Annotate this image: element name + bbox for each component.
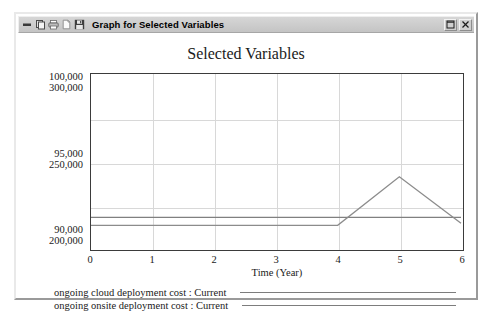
legend-item[interactable]: ongoing onsite deployment cost : Current — [54, 299, 464, 312]
y-tick-label: 200,000 — [18, 235, 90, 246]
legend-item[interactable]: ongoing cloud deployment cost : Current — [54, 286, 464, 299]
legend-color-swatch — [242, 305, 456, 306]
chart-title: Selected Variables — [18, 45, 474, 63]
x-tick-label: 3 — [273, 254, 278, 265]
minimize-icon[interactable] — [22, 19, 33, 30]
x-tick-label: 6 — [459, 254, 464, 265]
x-tick-label: 2 — [211, 254, 216, 265]
x-tick-label: 1 — [149, 254, 154, 265]
y-tick-label: 95,000 — [18, 148, 90, 159]
print-icon[interactable] — [48, 19, 59, 30]
window-titlebar[interactable]: Graph for Selected Variables — [18, 16, 474, 33]
x-tick-label: 5 — [397, 254, 402, 265]
y-tick-label: 100,000 — [18, 71, 90, 82]
x-axis-labels: 0 1 2 3 4 5 6 — [90, 254, 464, 268]
y-tick-label: 90,000 — [18, 224, 90, 235]
y-tick-label: 250,000 — [18, 159, 90, 170]
save-icon[interactable] — [74, 19, 85, 30]
chart-legend: ongoing cloud deployment cost : Current … — [54, 286, 464, 312]
plot-area — [90, 73, 464, 251]
x-tick-label: 0 — [87, 254, 92, 265]
y-axis-labels: 100,000 300,000 95,000 250,000 90,000 20… — [18, 73, 90, 251]
page-setup-icon[interactable] — [61, 19, 72, 30]
y-tick-label: 300,000 — [18, 82, 90, 93]
copy-icon[interactable] — [35, 19, 46, 30]
window-title: Graph for Selected Variables — [92, 19, 442, 30]
legend-item-label: ongoing cloud deployment cost : Current — [54, 287, 226, 298]
graph-window: Graph for Selected Variables Selected Va… — [14, 12, 478, 300]
x-axis-title: Time (Year) — [90, 267, 464, 278]
titlebar-icon-group — [22, 19, 85, 30]
legend-color-swatch — [240, 292, 456, 293]
close-button[interactable] — [459, 19, 472, 31]
x-tick-label: 4 — [335, 254, 340, 265]
window-client-area: Selected Variables 100,000 300,000 95,00… — [18, 33, 474, 296]
plot-series-svg — [91, 74, 463, 250]
maximize-button[interactable] — [444, 19, 457, 31]
legend-item-label: ongoing onsite deployment cost : Current — [54, 300, 228, 311]
